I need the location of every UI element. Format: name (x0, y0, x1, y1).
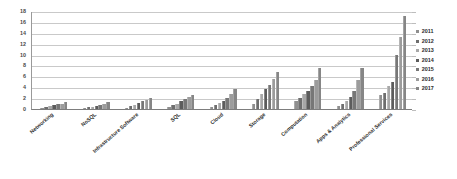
bar (145, 100, 148, 109)
bar (137, 103, 140, 109)
bar (222, 101, 225, 109)
right-axis-tick (412, 23, 416, 24)
legend-swatch-icon (416, 87, 419, 90)
bar (260, 94, 263, 109)
bar (264, 89, 267, 109)
y-axis: 024681012141618 (0, 12, 29, 110)
bar-group (83, 12, 111, 109)
bar (349, 97, 352, 109)
y-axis-tick-label: 6 (23, 75, 26, 80)
bar-chart: 024681012141618 NetworkingNoSQLInfrastru… (0, 0, 457, 179)
bar (391, 82, 394, 109)
bar-group (167, 12, 195, 109)
right-axis-tick (412, 66, 416, 67)
right-axis-tick (412, 88, 416, 89)
legend-swatch-icon (416, 49, 419, 52)
bar (399, 37, 402, 109)
x-axis-label: Cloud (209, 112, 224, 126)
bar-group (294, 12, 322, 109)
bar (102, 104, 105, 109)
bar-group (252, 12, 280, 109)
bar (179, 101, 182, 109)
bar (225, 98, 228, 109)
bar (310, 86, 313, 109)
x-axis-label: Apps & Analytics (315, 112, 351, 144)
bar (352, 91, 355, 109)
x-axis-label: NoSQL (80, 112, 97, 128)
bar (360, 68, 363, 109)
bar (191, 95, 194, 109)
x-axis-label: Networking (29, 112, 54, 135)
bar (187, 97, 190, 109)
bar (345, 101, 348, 109)
bar (98, 105, 101, 109)
bar (60, 104, 63, 109)
bar (318, 68, 321, 109)
y-axis-tick-label: 18 (20, 9, 26, 14)
legend-item-label: 2016 (422, 77, 434, 82)
right-axis-tick (412, 77, 416, 78)
legend-item-label: 2017 (422, 86, 434, 91)
bar-group (210, 12, 238, 109)
bar (167, 107, 170, 109)
legend-item: 2014 (416, 58, 434, 63)
legend-item-label: 2011 (422, 29, 434, 34)
bar (48, 106, 51, 109)
y-axis-tick-label: 4 (23, 86, 26, 91)
legend-item: 2013 (416, 48, 434, 53)
bars-layer (32, 12, 412, 109)
bar (341, 104, 344, 109)
legend-item-label: 2015 (422, 67, 434, 72)
bar (52, 105, 55, 109)
bar (268, 85, 271, 110)
x-axis-label: Computation (280, 112, 308, 137)
bar (218, 103, 221, 109)
legend-item: 2017 (416, 86, 434, 91)
bar (91, 107, 94, 109)
bar (83, 108, 86, 109)
bar (379, 95, 382, 109)
bar (141, 101, 144, 109)
right-axis-tick (412, 34, 416, 35)
bar (149, 98, 152, 109)
legend-item: 2016 (416, 77, 434, 82)
legend-item-label: 2014 (422, 58, 434, 63)
right-axis-tick (412, 12, 416, 13)
bar (64, 102, 67, 109)
bar (95, 106, 98, 109)
bar (395, 55, 398, 109)
x-axis-label: Infrastructure Software (92, 112, 139, 154)
right-axis-tick (412, 56, 416, 57)
legend-swatch-icon (416, 78, 419, 81)
y-axis-tick-label: 16 (20, 20, 26, 25)
bar (129, 106, 132, 109)
legend-item-label: 2013 (422, 48, 434, 53)
bar (383, 93, 386, 109)
bar (294, 101, 297, 109)
bar (302, 94, 305, 109)
y-axis-tick-label: 12 (20, 42, 26, 47)
y-axis-tick-label: 8 (23, 64, 26, 69)
bar (214, 105, 217, 109)
plot-area (31, 12, 412, 110)
bar-group (125, 12, 153, 109)
bar (56, 104, 59, 109)
x-axis-labels: NetworkingNoSQLInfrastructure SoftwareSQ… (31, 110, 412, 179)
bar (229, 94, 232, 109)
right-axis-tick (412, 99, 416, 100)
y-axis-tick-label: 2 (23, 96, 26, 101)
legend-swatch-icon (416, 40, 419, 43)
bar (256, 99, 259, 109)
bar (356, 80, 359, 109)
bar (171, 105, 174, 109)
bar (276, 72, 279, 109)
bar (175, 104, 178, 109)
bar (106, 102, 109, 109)
legend-item: 2012 (416, 39, 434, 44)
bar (125, 108, 128, 109)
y-axis-tick-label: 0 (23, 107, 26, 112)
chart-legend: 2011201220132014201520162017 (416, 29, 434, 91)
bar (44, 107, 47, 109)
legend-swatch-icon (416, 68, 419, 71)
bar (87, 107, 90, 109)
